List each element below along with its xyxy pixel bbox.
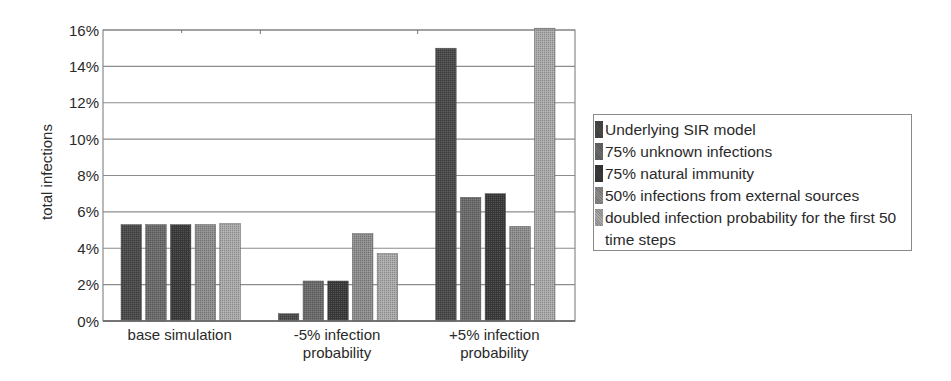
legend-item: 50% infections from external sources: [594, 185, 907, 207]
y-tick-label: 4%: [77, 240, 99, 257]
y-tick-labels: 0%2%4%6%8%10%12%14%16%: [69, 22, 99, 330]
bar: [534, 28, 555, 321]
bar: [170, 225, 191, 321]
legend-item: 75% unknown infections: [594, 141, 907, 163]
legend-swatch: [595, 165, 603, 182]
bar: [377, 254, 398, 321]
x-tick-label: base simulation: [128, 326, 232, 343]
legend-label: Underlying SIR model: [605, 119, 907, 141]
x-tick-label: -5% infection: [294, 326, 381, 343]
x-tick-label: probability: [303, 344, 372, 361]
legend-label: 75% natural immunity: [605, 163, 907, 185]
legend-label: 50% infections from external sources: [605, 185, 907, 207]
bar: [195, 225, 216, 321]
y-tick-label: 6%: [77, 203, 99, 220]
legend-item: Underlying SIR model: [594, 119, 907, 141]
y-tick-label: 2%: [77, 276, 99, 293]
bar: [220, 224, 241, 321]
legend-item: 75% natural immunity: [594, 163, 907, 185]
legend-item: doubled infection probability for the fi…: [594, 207, 907, 251]
bar: [436, 48, 457, 321]
bar: [278, 314, 299, 321]
legend: Underlying SIR model75% unknown infectio…: [593, 114, 912, 251]
bar: [352, 234, 373, 321]
y-tick-label: 8%: [77, 167, 99, 184]
legend-label: doubled infection probability for the fi…: [605, 207, 907, 251]
bar: [328, 281, 349, 321]
legend-swatch: [595, 209, 603, 226]
y-tick-label: 0%: [77, 313, 99, 330]
legend-swatch: [595, 121, 603, 138]
bar: [146, 225, 167, 321]
bar: [303, 281, 324, 321]
y-tick-label: 10%: [69, 131, 99, 148]
legend-swatch: [595, 187, 603, 204]
bar: [121, 225, 141, 321]
x-tick-label: probability: [460, 344, 529, 361]
y-tick-label: 14%: [69, 58, 99, 75]
x-tick-label: +5% infection: [449, 326, 539, 343]
bar: [485, 194, 506, 321]
bar: [510, 226, 531, 321]
bars: [121, 28, 555, 321]
legend-label: 75% unknown infections: [605, 141, 907, 163]
y-tick-label: 12%: [69, 94, 99, 111]
bar: [460, 197, 481, 321]
legend-swatch: [595, 143, 603, 160]
y-axis-label: total infections: [38, 124, 55, 220]
x-tick-labels: base simulation-5% infectionprobability+…: [128, 326, 540, 361]
y-tick-label: 16%: [69, 22, 99, 39]
